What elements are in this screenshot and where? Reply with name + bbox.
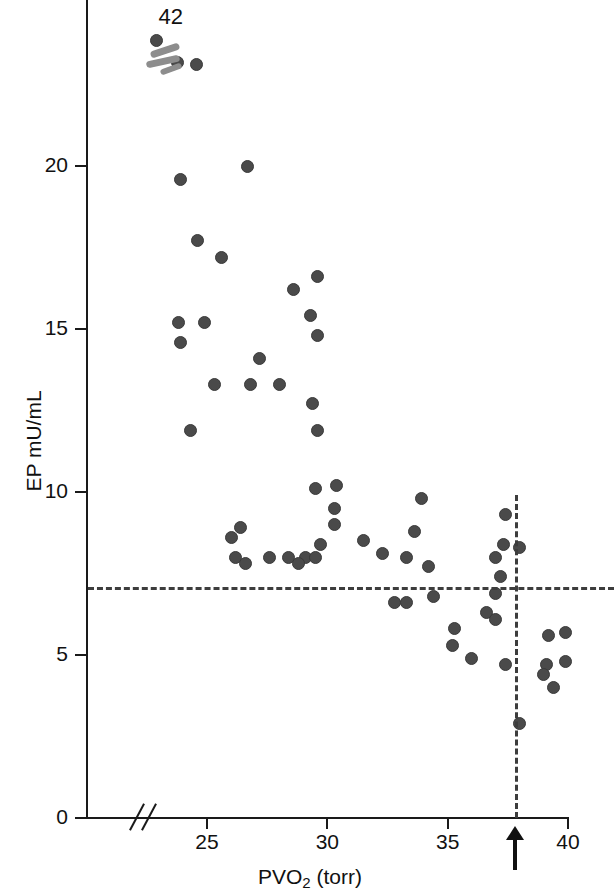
data-point	[241, 160, 254, 173]
data-point	[215, 251, 228, 264]
x-tick-35	[447, 818, 449, 829]
data-point	[422, 560, 435, 573]
data-point	[172, 316, 185, 329]
data-point	[559, 655, 572, 668]
data-point	[184, 424, 197, 437]
data-point	[415, 492, 428, 505]
x-axis-break-icon	[128, 800, 164, 834]
data-point	[263, 551, 276, 564]
data-point	[400, 551, 413, 564]
data-point	[273, 378, 286, 391]
data-point	[489, 551, 502, 564]
data-point	[497, 538, 510, 551]
data-point	[198, 316, 211, 329]
data-point	[309, 482, 322, 495]
y-axis-title: EP mU/mL	[23, 361, 45, 521]
y-tick-10	[75, 491, 87, 493]
x-tick-25	[206, 818, 208, 829]
data-point	[376, 547, 389, 560]
offscale-value-label: 42	[158, 6, 182, 28]
data-point	[311, 329, 324, 342]
data-point	[174, 173, 187, 186]
data-point	[309, 551, 322, 564]
y-tick-0	[75, 817, 87, 819]
data-point	[311, 270, 324, 283]
data-point	[427, 590, 440, 603]
data-point	[547, 681, 560, 694]
threshold-arrow-icon	[504, 826, 526, 870]
x-axis-title-unit: (torr)	[317, 865, 363, 888]
data-point	[499, 658, 512, 671]
horizontal-threshold-line	[88, 587, 614, 590]
data-point	[314, 538, 327, 551]
data-point	[292, 557, 305, 570]
data-point	[304, 309, 317, 322]
data-point	[306, 397, 319, 410]
x-tick-label-30: 30	[297, 831, 357, 853]
data-point	[330, 479, 343, 492]
offscale-data-point	[190, 58, 203, 71]
data-point	[253, 352, 266, 365]
x-axis-title-subscript: 2	[302, 874, 310, 891]
data-point	[465, 652, 478, 665]
data-point	[328, 518, 341, 531]
x-tick-label-35: 35	[418, 831, 478, 853]
data-point	[400, 596, 413, 609]
data-point	[328, 502, 341, 515]
x-tick-label-25: 25	[177, 831, 237, 853]
data-point	[494, 570, 507, 583]
y-tick-label-5: 5	[0, 643, 68, 664]
data-point	[174, 336, 187, 349]
x-tick-30	[326, 818, 328, 829]
data-point	[499, 508, 512, 521]
data-point	[208, 378, 221, 391]
data-point	[244, 378, 257, 391]
y-tick-label-0: 0	[0, 806, 68, 827]
y-tick-20	[75, 165, 87, 167]
y-axis-line	[86, 0, 88, 819]
data-point	[357, 534, 370, 547]
y-tick-15	[75, 328, 87, 330]
scatter-plot-figure: 05101520 25303540 42 EP mU/mL PVO2 (torr…	[0, 0, 614, 894]
data-point	[542, 629, 555, 642]
data-point	[408, 525, 421, 538]
data-point	[225, 531, 238, 544]
x-axis-title-base: PVO	[258, 865, 302, 888]
x-axis-title: PVO2 (torr)	[180, 865, 440, 894]
y-tick-5	[75, 654, 87, 656]
offscale-data-point	[150, 34, 163, 47]
data-point	[287, 283, 300, 296]
y-tick-label-15: 15	[0, 317, 68, 338]
data-point	[239, 557, 252, 570]
data-point	[489, 613, 502, 626]
y-tick-label-20: 20	[0, 154, 68, 175]
data-point	[537, 668, 550, 681]
data-point	[191, 234, 204, 247]
data-point	[311, 424, 324, 437]
data-point	[448, 622, 461, 635]
x-tick-40	[567, 818, 569, 829]
vertical-threshold-line	[515, 495, 518, 818]
x-tick-label-40: 40	[538, 831, 598, 853]
data-point	[446, 639, 459, 652]
data-point	[559, 626, 572, 639]
